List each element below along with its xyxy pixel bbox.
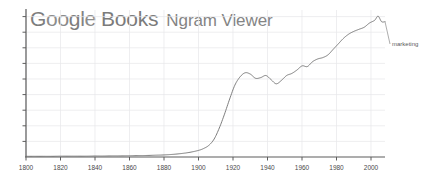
x-tick-label: 2000 <box>364 164 379 171</box>
ngram-chart: 1800 1820 1840 1860 1880 1900 1920 1940 … <box>0 0 440 177</box>
x-tick-label: 1960 <box>295 164 310 171</box>
x-tick-label: 1900 <box>191 164 206 171</box>
series-leader-line <box>385 22 390 44</box>
x-tick-label: 1980 <box>329 164 344 171</box>
x-tick-label: 1880 <box>157 164 172 171</box>
horizontal-gridlines <box>26 17 385 142</box>
series-label-marketing[interactable]: marketing <box>392 41 418 47</box>
x-tick-label: 1940 <box>260 164 275 171</box>
x-axis-tick-labels: 1800 1820 1840 1860 1880 1900 1920 1940 … <box>19 164 379 171</box>
x-tick-label: 1860 <box>122 164 137 171</box>
x-tick-label: 1800 <box>19 164 34 171</box>
ngram-viewer-screenshot: GoogleBooksNgram Viewer <box>0 0 440 177</box>
x-tick-label: 1820 <box>53 164 68 171</box>
x-tick-label: 1840 <box>88 164 103 171</box>
series-line-marketing[interactable] <box>26 16 385 156</box>
x-tick-label: 1920 <box>226 164 241 171</box>
